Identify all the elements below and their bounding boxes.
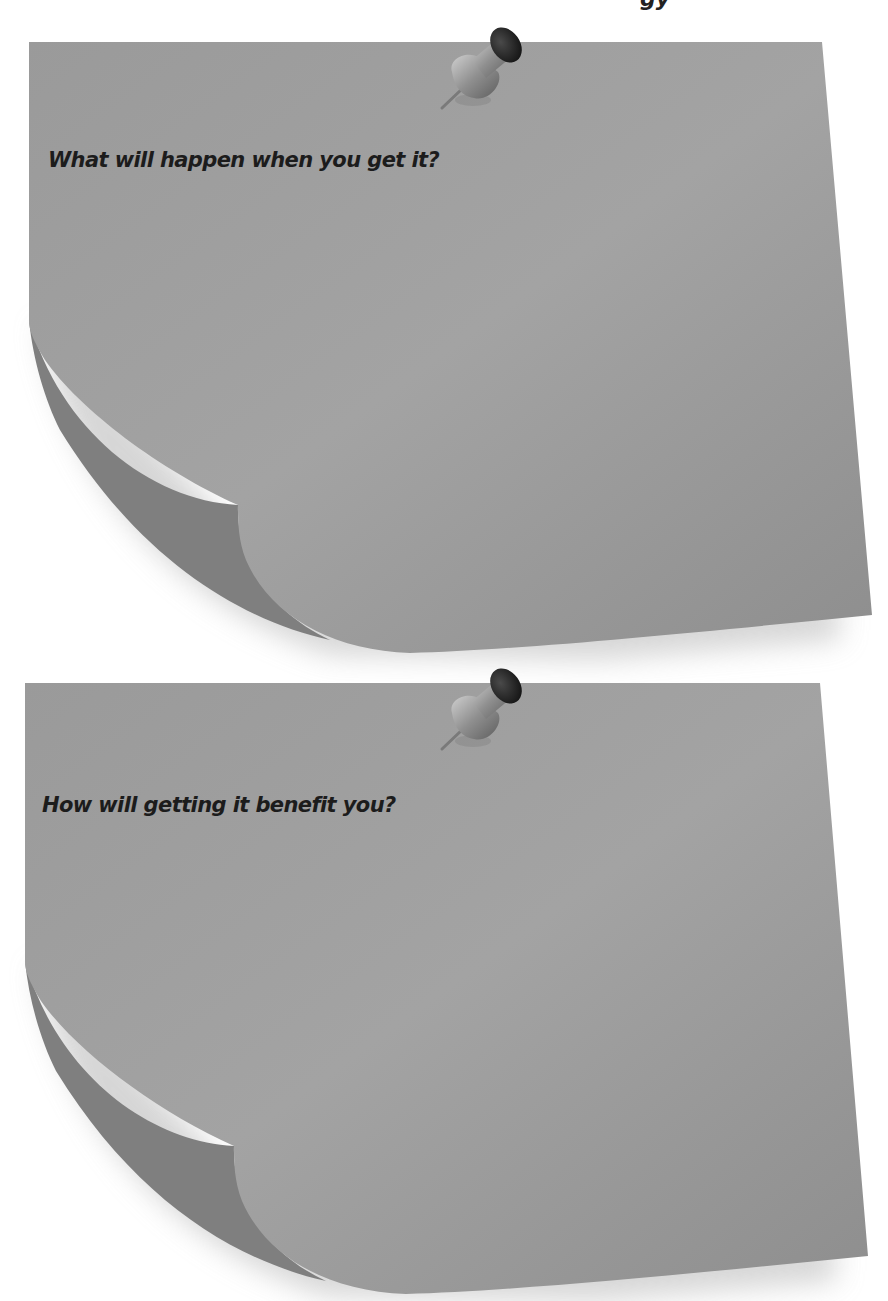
pushpin-icon <box>418 661 528 761</box>
pushpin-icon <box>418 20 528 120</box>
sticky-note-1: What will happen when you get it? <box>0 0 888 660</box>
note-prompt: How will getting it benefit you? <box>42 793 396 817</box>
sticky-note-2: How will getting it benefit you? <box>0 641 888 1301</box>
note-prompt: What will happen when you get it? <box>48 148 439 172</box>
